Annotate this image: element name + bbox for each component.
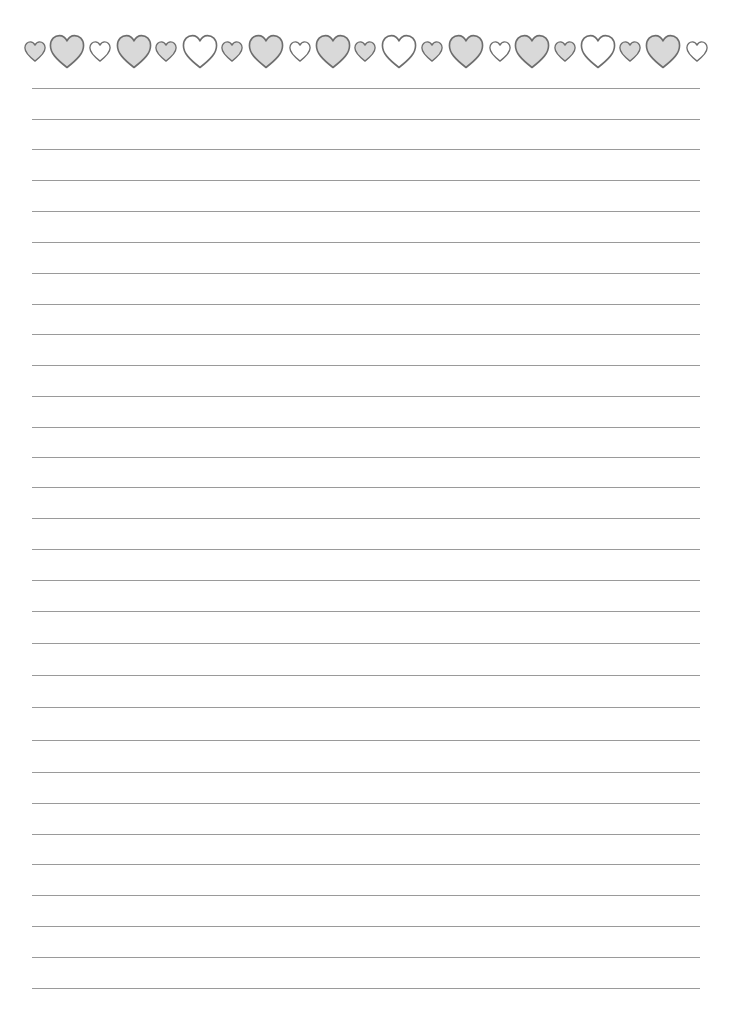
rule-line: [32, 149, 700, 150]
rule-line: [32, 427, 700, 428]
rule-line: [32, 88, 700, 89]
ruled-writing-area[interactable]: [0, 0, 737, 1030]
rule-line: [32, 180, 700, 181]
rule-line: [32, 772, 700, 773]
rule-line: [32, 487, 700, 488]
rule-line: [32, 643, 700, 644]
rule-line: [32, 242, 700, 243]
rule-line: [32, 834, 700, 835]
rule-line: [32, 864, 700, 865]
rule-line: [32, 211, 700, 212]
rule-line: [32, 803, 700, 804]
rule-line: [32, 988, 700, 989]
rule-line: [32, 707, 700, 708]
rule-line: [32, 957, 700, 958]
rule-line: [32, 740, 700, 741]
rule-line: [32, 675, 700, 676]
rule-line: [32, 895, 700, 896]
rule-line: [32, 396, 700, 397]
rule-line: [32, 518, 700, 519]
rule-line: [32, 119, 700, 120]
rule-line: [32, 611, 700, 612]
rule-line: [32, 304, 700, 305]
rule-line: [32, 549, 700, 550]
rule-line: [32, 365, 700, 366]
rule-line: [32, 273, 700, 274]
rule-line: [32, 334, 700, 335]
rule-line: [32, 457, 700, 458]
rule-line: [32, 580, 700, 581]
rule-line: [32, 926, 700, 927]
